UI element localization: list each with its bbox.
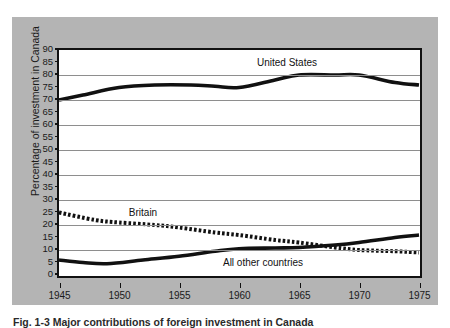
gridline-80	[59, 75, 420, 76]
x-tick-label-1950: 1950	[108, 290, 130, 301]
y-tick-label-20: 20	[42, 219, 53, 228]
x-tick-label-1955: 1955	[168, 290, 190, 301]
y-tick-label-70: 70	[42, 94, 53, 103]
gridline-60	[59, 125, 420, 126]
x-tick-label-1945: 1945	[48, 290, 70, 301]
y-tick-label-40: 40	[42, 169, 53, 178]
y-tick-label-55: 55	[42, 132, 53, 141]
x-tick-label-1970: 1970	[348, 290, 370, 301]
y-axis-tick-labels: 051015202530354045505560657075808590	[28, 48, 53, 278]
x-tick-mark-1945	[60, 283, 62, 288]
gridline-10	[59, 250, 420, 251]
y-tick-label-45: 45	[42, 157, 53, 166]
y-tick-label-15: 15	[42, 232, 53, 241]
x-tick-mark-1955	[180, 283, 182, 288]
series-lines	[59, 50, 419, 275]
gridline-50	[59, 150, 420, 151]
x-tick-label-1975: 1975	[408, 290, 430, 301]
y-tick-label-60: 60	[42, 119, 53, 128]
x-tick-label-1960: 1960	[228, 290, 250, 301]
gridline-70	[59, 100, 420, 101]
series-line-united-states	[59, 74, 419, 100]
x-tick-mark-1970	[360, 283, 362, 288]
y-tick-label-0: 0	[48, 269, 53, 278]
y-tick-label-25: 25	[42, 207, 53, 216]
series-label-all-other-countries: All other countries	[223, 257, 303, 268]
y-tick-label-5: 5	[48, 257, 53, 266]
y-tick-label-10: 10	[42, 244, 53, 253]
y-tick-label-30: 30	[42, 194, 53, 203]
x-axis-tick-labels: 1945195019551960196519701975	[57, 283, 422, 299]
plot-inner: United StatesBritainAll other countries	[59, 50, 420, 276]
gridline-40	[59, 175, 420, 176]
x-tick-mark-1965	[300, 283, 302, 288]
x-tick-mark-1950	[120, 283, 122, 288]
x-tick-mark-1960	[240, 283, 242, 288]
figure-caption: Fig. 1-3 Major contributions of foreign …	[13, 316, 443, 328]
gridline-20	[59, 225, 420, 226]
gridline-30	[59, 200, 420, 201]
series-label-united-states: United States	[257, 57, 317, 68]
y-tick-label-85: 85	[42, 57, 53, 66]
series-label-britain: Britain	[129, 207, 157, 218]
y-tick-label-90: 90	[42, 44, 53, 53]
y-tick-label-65: 65	[42, 107, 53, 116]
y-tick-label-50: 50	[42, 144, 53, 153]
series-line-britain	[59, 213, 419, 253]
y-tick-label-80: 80	[42, 69, 53, 78]
x-tick-label-1965: 1965	[288, 290, 310, 301]
y-tick-label-75: 75	[42, 82, 53, 91]
y-tick-label-35: 35	[42, 182, 53, 191]
x-tick-mark-1975	[420, 283, 422, 288]
plot-area: United StatesBritainAll other countries	[57, 48, 422, 278]
